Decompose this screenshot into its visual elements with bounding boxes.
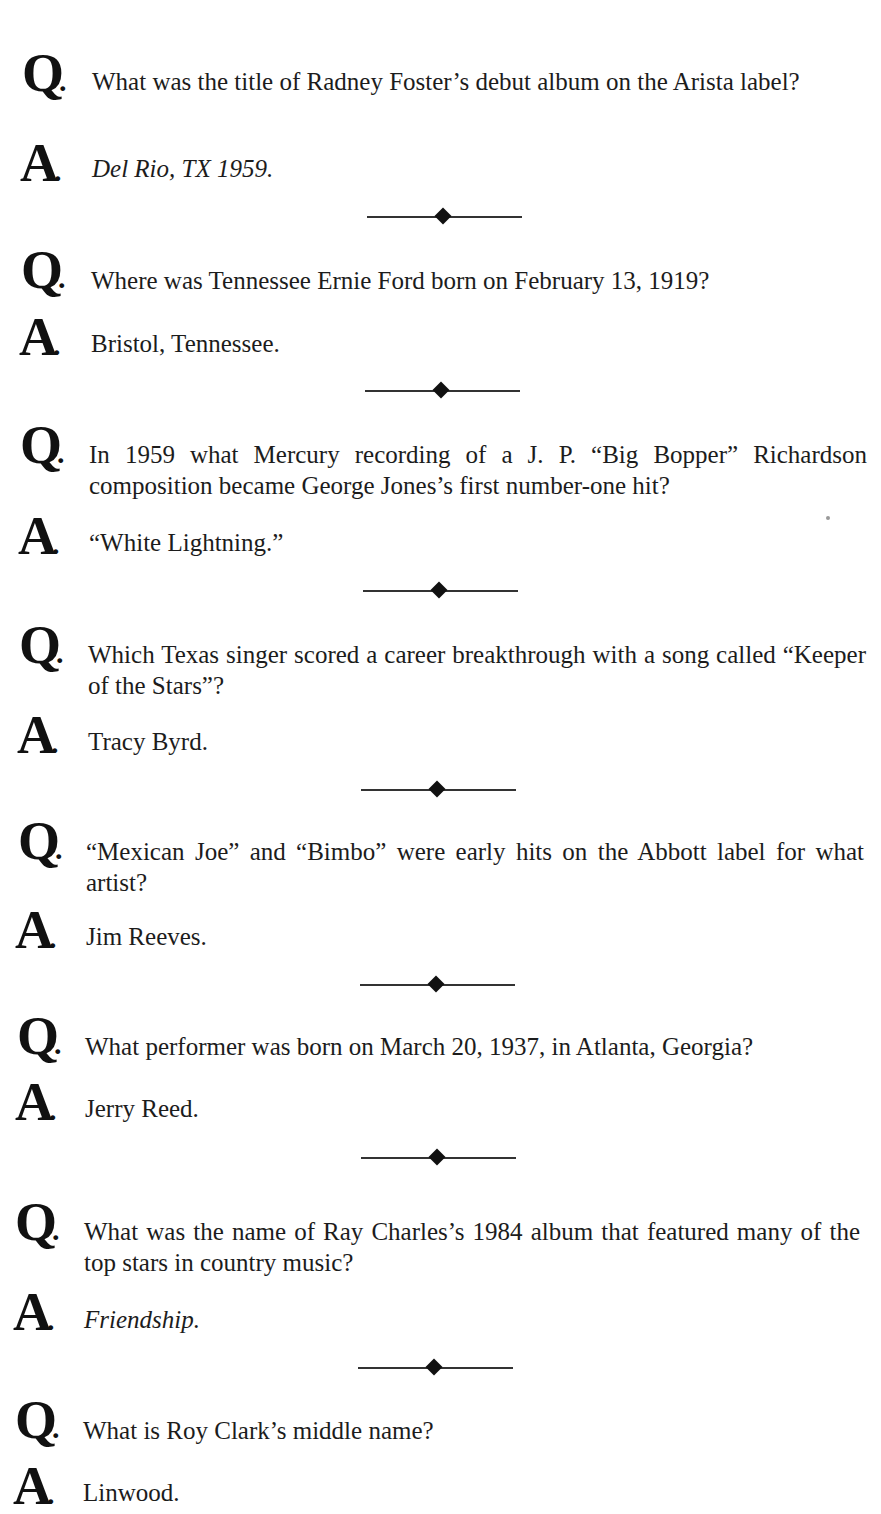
answer-text: Tracy Byrd. xyxy=(88,726,788,757)
marker-dot: . xyxy=(59,64,65,97)
answer-letter: A xyxy=(19,307,56,367)
diamond-icon xyxy=(431,582,448,599)
section-divider xyxy=(358,1358,513,1378)
marker-dot: . xyxy=(52,527,58,560)
answer-letter: A xyxy=(17,705,54,765)
answer-letter: A xyxy=(20,133,57,193)
answer-text: Friendship. xyxy=(84,1304,784,1335)
section-divider xyxy=(360,975,515,995)
answer-text: “White Lightning.” xyxy=(89,527,789,558)
answer-letter: A xyxy=(13,1282,50,1342)
answer-letter: A xyxy=(13,1456,50,1514)
answer-letter: A xyxy=(15,1072,52,1132)
answer-marker: A. xyxy=(20,136,63,198)
diamond-icon xyxy=(435,208,452,225)
question-letter: Q xyxy=(20,415,60,475)
marker-dot: . xyxy=(49,921,55,954)
diamond-icon xyxy=(428,976,445,993)
answer-marker: A. xyxy=(18,509,61,571)
question-marker: Q. xyxy=(18,814,64,876)
answer-text: Linwood. xyxy=(83,1477,783,1508)
answer-marker: A. xyxy=(13,1285,56,1347)
answer-marker: A. xyxy=(17,708,60,770)
diamond-icon xyxy=(429,1149,446,1166)
answer-letter: A xyxy=(15,900,52,960)
marker-dot: . xyxy=(52,1411,58,1444)
question-text: What performer was born on March 20, 193… xyxy=(85,1031,865,1062)
question-letter: Q xyxy=(18,811,58,871)
question-text: What was the name of Ray Charles’s 1984 … xyxy=(84,1216,860,1278)
marker-dot: . xyxy=(54,1027,60,1060)
section-divider xyxy=(361,780,516,800)
marker-dot: . xyxy=(51,726,57,759)
section-divider xyxy=(363,581,518,601)
marker-dot: . xyxy=(52,1213,58,1246)
print-speck xyxy=(826,516,830,520)
marker-dot: . xyxy=(55,832,61,865)
question-letter: Q xyxy=(15,1390,55,1450)
marker-dot: . xyxy=(57,436,63,469)
answer-marker: A. xyxy=(15,1075,58,1137)
section-divider xyxy=(365,381,520,401)
question-text: Where was Tennessee Ernie Ford born on F… xyxy=(91,265,871,296)
question-text: In 1959 what Mercury recording of a J. P… xyxy=(89,439,867,501)
marker-dot: . xyxy=(53,328,59,361)
marker-dot: . xyxy=(54,154,60,187)
answer-marker: A. xyxy=(19,310,62,372)
answer-text: Bristol, Tennessee. xyxy=(91,328,791,359)
answer-marker: A. xyxy=(13,1459,56,1514)
question-text: “Mexican Joe” and “Bimbo” were early hit… xyxy=(86,836,864,898)
answer-letter: A xyxy=(18,506,55,566)
marker-dot: . xyxy=(58,261,64,294)
marker-dot: . xyxy=(47,1303,53,1336)
question-letter: Q xyxy=(15,1192,55,1252)
question-letter: Q xyxy=(22,43,62,103)
running-header: · · · · · · · · · · xyxy=(782,0,868,8)
question-letter: Q xyxy=(21,240,61,300)
answer-text: Jerry Reed. xyxy=(85,1093,785,1124)
question-marker: Q. xyxy=(22,46,68,108)
question-text: What was the title of Radney Foster’s de… xyxy=(92,66,868,97)
question-marker: Q. xyxy=(15,1393,61,1455)
marker-dot: . xyxy=(49,1093,55,1126)
question-letter: Q xyxy=(17,1006,57,1066)
answer-text: Del Rio, TX 1959. xyxy=(92,153,792,184)
book-page: · · · · · · · · · · Q. What was the titl… xyxy=(0,0,881,1514)
question-marker: Q. xyxy=(20,418,66,480)
section-divider xyxy=(367,207,522,227)
question-text: Which Texas singer scored a career break… xyxy=(88,639,866,701)
marker-dot: . xyxy=(47,1477,53,1510)
question-marker: Q. xyxy=(19,618,65,680)
marker-dot: . xyxy=(56,636,62,669)
question-text: What is Roy Clark’s middle name? xyxy=(83,1415,859,1446)
question-marker: Q. xyxy=(17,1009,63,1071)
answer-marker: A. xyxy=(15,903,58,965)
diamond-icon xyxy=(426,1359,443,1376)
answer-text: Jim Reeves. xyxy=(86,921,786,952)
question-marker: Q. xyxy=(21,243,67,305)
section-divider xyxy=(361,1148,516,1168)
question-marker: Q. xyxy=(15,1195,61,1257)
diamond-icon xyxy=(433,382,450,399)
question-letter: Q xyxy=(19,615,59,675)
diamond-icon xyxy=(429,781,446,798)
